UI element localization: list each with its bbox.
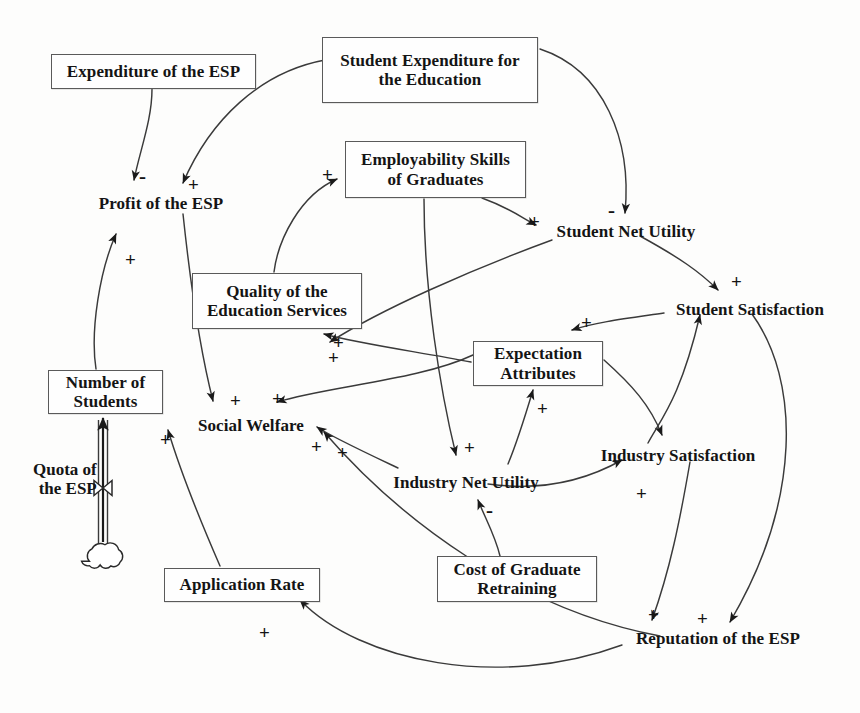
polarity-sign-l10: + (272, 389, 283, 408)
node-student_expenditure[interactable]: Student Expenditure forthe Education (322, 37, 538, 103)
link-student_net_utility-to-student_satisfaction (640, 236, 718, 290)
link-application_rate-to-number_students (168, 430, 220, 566)
link-reputation_esp-to-application_rate (300, 600, 622, 667)
flow-source-cloud-icon (82, 543, 123, 568)
node-label: Expenditure of the ESP (67, 62, 240, 81)
link-expectation_attr-to-industry_satisfaction (604, 360, 662, 435)
link-expectation_attr-to-social_welfare (277, 355, 473, 402)
node-employability[interactable]: Employability Skillsof Graduates (345, 141, 526, 198)
polarity-sign-l17: + (337, 443, 348, 462)
polarity-sign-l11: + (333, 333, 344, 352)
node-cost_retraining[interactable]: Cost of GraduateRetraining (437, 556, 597, 602)
node-student_satisfaction[interactable]: Student Satisfaction (664, 300, 836, 322)
link-employability-to-industry_net_utility (424, 199, 456, 455)
node-label: Social Welfare (198, 416, 304, 435)
node-number_students[interactable]: Number ofStudents (48, 370, 163, 414)
polarity-sign-l3: - (608, 200, 615, 221)
link-employability-to-student_net_utility (482, 198, 536, 225)
link-industry_net_utility-to-social_welfare (317, 427, 398, 468)
polarity-sign-l19: - (486, 500, 493, 521)
link-industry_satisfaction-to-student_satisfaction (648, 315, 700, 443)
polarity-sign-l22: + (259, 623, 270, 642)
node-profit_esp[interactable]: Profit of the ESP (86, 194, 236, 216)
link-student_net_utility-to-social_welfare (330, 240, 552, 342)
node-social_welfare[interactable]: Social Welfare (187, 416, 315, 438)
polarity-sign-l24: + (311, 437, 322, 456)
link-student_expenditure-to-student_net_utility (540, 49, 626, 213)
node-label: Student Expenditure forthe Education (340, 51, 520, 89)
node-label: Profit of the ESP (99, 194, 224, 213)
polarity-sign-l7: + (125, 250, 136, 269)
node-label: Application Rate (180, 575, 305, 594)
node-label: Cost of GraduateRetraining (453, 560, 580, 598)
node-quality_education[interactable]: Quality of theEducation Services (192, 273, 362, 329)
node-industry_satisfaction[interactable]: Industry Satisfaction (592, 446, 764, 468)
node-student_net_utility[interactable]: Student Net Utility (546, 222, 706, 244)
polarity-sign-l16: + (537, 399, 548, 418)
polarity-sign-l2: + (188, 175, 199, 194)
polarity-sign-l12: + (731, 272, 742, 291)
node-label: Reputation of the ESP (636, 629, 800, 648)
link-number_students-to-profit_esp (94, 234, 116, 369)
node-expenditure_esp[interactable]: Expenditure of the ESP (51, 54, 256, 89)
polarity-sign-l13: + (581, 313, 592, 332)
polarity-sign-l23: + (160, 430, 171, 449)
link-expectation_attr-to-quality_education (324, 334, 471, 362)
polarity-sign-l21: + (697, 609, 708, 628)
link-industry_net_utility-to-expectation_attr (508, 390, 533, 464)
polarity-sign-l4: + (322, 165, 333, 184)
node-reputation_esp[interactable]: Reputation of the ESP (625, 629, 811, 651)
polarity-sign-l20: + (648, 605, 659, 624)
polarity-sign-l1: - (139, 166, 146, 187)
link-student_satisfaction-to-reputation_esp (730, 314, 786, 622)
polarity-sign-l5: + (529, 212, 540, 231)
node-label: Student Satisfaction (676, 300, 824, 319)
node-application_rate[interactable]: Application Rate (164, 568, 320, 602)
causal-loop-diagram: Expenditure of the ESPStudent Expenditur… (0, 0, 860, 713)
flow-label-quota-of-the-esp: Quota ofthe ESP (33, 460, 97, 498)
node-industry_net_utility[interactable]: Industry Net Utility (386, 473, 546, 495)
link-industry_satisfaction-to-reputation_esp (652, 462, 690, 620)
link-quality_education-to-employability (274, 179, 337, 272)
node-label: Number ofStudents (66, 373, 145, 411)
node-label: Industry Net Utility (393, 473, 539, 492)
node-label: ExpectationAttributes (494, 344, 582, 382)
polarity-sign-l6: + (464, 438, 475, 457)
node-expectation_attr[interactable]: ExpectationAttributes (473, 341, 603, 386)
polarity-sign-l18: + (636, 484, 647, 503)
node-label: Employability Skillsof Graduates (361, 150, 510, 188)
link-layer (0, 0, 860, 713)
node-label: Quality of theEducation Services (207, 282, 347, 320)
node-label: Student Net Utility (557, 222, 696, 241)
node-label: Industry Satisfaction (601, 446, 756, 465)
polarity-sign-l8: + (230, 391, 241, 410)
